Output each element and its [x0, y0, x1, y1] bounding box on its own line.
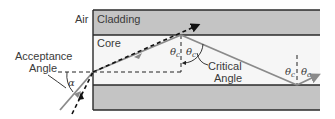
acceptance-angle-label-2: Angle	[29, 62, 57, 74]
critical-angle-label-2: Angle	[214, 72, 242, 84]
bottom-cladding	[93, 85, 320, 110]
alpha-label: α	[68, 77, 75, 88]
optical-fiber-diagram: α Air Cladding Core Acceptance Angle Cri…	[0, 0, 335, 119]
core-label: Core	[97, 37, 121, 49]
acceptance-angle-label-1: Acceptance	[15, 50, 72, 62]
critical-angle-label-1: Critical	[208, 60, 242, 72]
core	[93, 35, 320, 85]
acceptance-pointer	[48, 75, 66, 88]
air-label: Air	[75, 13, 89, 25]
cladding-label: Cladding	[97, 13, 140, 25]
